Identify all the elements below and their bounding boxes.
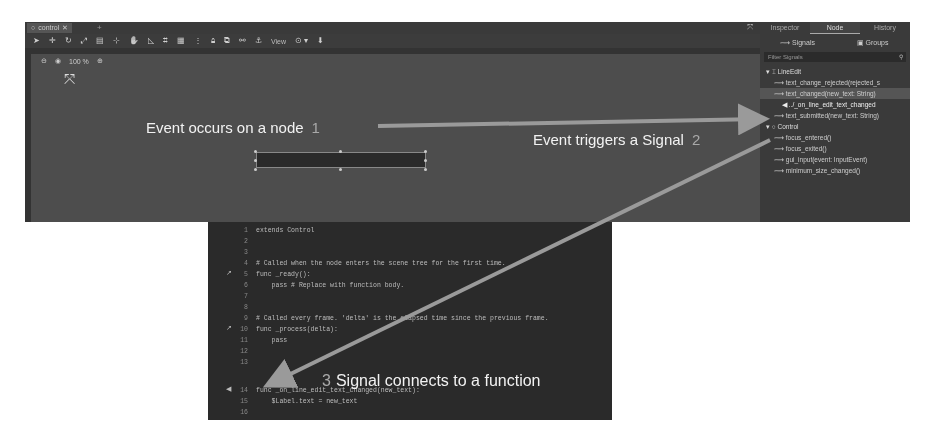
- zoom-reset-icon[interactable]: ◉: [55, 57, 61, 65]
- signal-icon: ⟿: [774, 156, 786, 163]
- zoom-out-icon[interactable]: ⊖: [41, 57, 47, 65]
- search-icon: ⚲: [899, 52, 903, 62]
- rotate-icon[interactable]: ↻: [65, 34, 72, 48]
- view-menu[interactable]: View: [271, 38, 286, 45]
- select-icon[interactable]: ➤: [33, 34, 40, 48]
- override-icon[interactable]: ↗: [226, 269, 232, 277]
- signal-connection[interactable]: ◀ ../_on_line_edit_text_changed: [760, 99, 910, 110]
- filter-signals-input[interactable]: Filter Signals ⚲: [764, 52, 906, 62]
- gizmo-icon[interactable]: ⊙ ▾: [295, 34, 308, 48]
- lock-icon[interactable]: 🔒︎: [211, 34, 215, 48]
- code-line: 15 $Label.text = new_text: [208, 396, 612, 407]
- code-line: 8: [208, 302, 612, 313]
- resize-handle[interactable]: [339, 150, 342, 153]
- code-line: 5func _ready():: [208, 269, 612, 280]
- line-edit-node[interactable]: [256, 152, 426, 168]
- distraction-free-icon[interactable]: ⤧: [747, 22, 753, 34]
- pivot-icon[interactable]: ⊹: [113, 34, 120, 48]
- node-dock: Inspector Node History ⟿ Signals ▣ Group…: [760, 22, 910, 222]
- bone-icon[interactable]: ⚯: [239, 34, 246, 48]
- scene-tab-bar: ○ control ✕ +: [25, 22, 760, 34]
- code-line: 3: [208, 247, 612, 258]
- zoom-controls: ⊖ ◉ 100 % ⊕: [41, 57, 103, 65]
- resize-handle[interactable]: [254, 150, 257, 153]
- override-icon[interactable]: ↗: [226, 324, 232, 332]
- resize-handle[interactable]: [339, 168, 342, 171]
- signals-subtab[interactable]: ⟿ Signals: [760, 39, 835, 47]
- code-line: 12: [208, 346, 612, 357]
- close-icon[interactable]: ✕: [62, 23, 68, 33]
- code-line: 9# Called every frame. 'delta' is the el…: [208, 313, 612, 324]
- group-icon[interactable]: ⧉: [224, 34, 230, 48]
- keyframe-icon[interactable]: ⬇: [317, 34, 324, 48]
- signal-tree: ▾ ⌶ LineEdit ⟿ text_change_rejected(reje…: [760, 66, 910, 176]
- code-line: 4# Called when the node enters the scene…: [208, 258, 612, 269]
- filter-placeholder: Filter Signals: [768, 54, 803, 60]
- resize-handle[interactable]: [424, 168, 427, 171]
- annotation-step-3: 3Signal connects to a function: [322, 372, 540, 390]
- signal-connection-icon[interactable]: ◀: [226, 385, 231, 393]
- groups-subtab[interactable]: ▣ Groups: [835, 39, 910, 47]
- resize-handle[interactable]: [254, 168, 257, 171]
- signal-item[interactable]: ⟿ focus_entered(): [760, 132, 910, 143]
- code-line: 7: [208, 291, 612, 302]
- signal-item[interactable]: ⟿ focus_exited(): [760, 143, 910, 154]
- signal-icon: ⟿: [774, 79, 786, 86]
- move-icon[interactable]: ✛: [49, 34, 56, 48]
- tab-node[interactable]: Node: [810, 22, 860, 34]
- annotation-step-2: Event triggers a Signal2: [533, 131, 700, 148]
- code-line: 2: [208, 236, 612, 247]
- tab-history[interactable]: History: [860, 22, 910, 34]
- scale-icon[interactable]: ⤢: [81, 34, 87, 48]
- tab-control[interactable]: ○ control ✕: [27, 23, 72, 33]
- signal-item[interactable]: ⟿ text_submitted(new_text: String): [760, 110, 910, 121]
- more-icon[interactable]: ⋮: [194, 34, 202, 48]
- signal-item[interactable]: ⟿ text_change_rejected(rejected_s: [760, 77, 910, 88]
- code-line: 10func _process(delta):: [208, 324, 612, 335]
- signal-icon: ⟿: [774, 134, 786, 141]
- anchor-icon[interactable]: ⚓︎: [255, 34, 262, 48]
- signal-item[interactable]: ⟿ gui_input(event: InputEvent): [760, 154, 910, 165]
- resize-handle[interactable]: [424, 159, 427, 162]
- circle-node-icon: ○: [31, 23, 35, 33]
- code-line: 1extends Control: [208, 225, 612, 236]
- script-editor[interactable]: 1extends Control 2 3 4# Called when the …: [208, 222, 612, 420]
- annotation-step-1: Event occurs on a node1: [146, 119, 320, 136]
- code-line: 11 pass: [208, 335, 612, 346]
- tab-inspector[interactable]: Inspector: [760, 22, 810, 34]
- signal-item-text-changed[interactable]: ⟿ text_changed(new_text: String): [760, 88, 910, 99]
- signal-item[interactable]: ⟿ minimum_size_changed(): [760, 165, 910, 176]
- signal-group-control[interactable]: ▾ ○ Control: [760, 121, 910, 132]
- signal-icon: ⟿: [774, 90, 786, 97]
- code-line: 6 pass # Replace with function body.: [208, 280, 612, 291]
- resize-handle[interactable]: [254, 159, 257, 162]
- zoom-in-icon[interactable]: ⊕: [97, 57, 103, 65]
- control-node-icon: ○: [772, 123, 776, 130]
- add-tab-button[interactable]: +: [97, 23, 102, 33]
- list-select-icon[interactable]: ▤: [96, 34, 104, 48]
- code-line: 13: [208, 357, 612, 368]
- node-subtabs: ⟿ Signals ▣ Groups: [760, 36, 910, 50]
- zoom-level[interactable]: 100 %: [69, 58, 89, 65]
- fullscreen-icon[interactable]: ⤧: [64, 71, 75, 88]
- ruler-icon[interactable]: ◺: [148, 34, 154, 48]
- signal-icon: ⟿: [780, 39, 792, 46]
- connection-icon: ◀: [782, 101, 789, 108]
- snap-icon[interactable]: ⌗: [163, 34, 168, 48]
- code-line: 16: [208, 407, 612, 418]
- resize-handle[interactable]: [424, 150, 427, 153]
- signal-icon: ⟿: [774, 167, 786, 174]
- dock-tab-bar: Inspector Node History: [760, 22, 910, 34]
- signal-icon: ⟿: [774, 145, 786, 152]
- tab-label: control: [38, 23, 59, 33]
- canvas-toolbar: ➤ ✛ ↻ ⤢ ▤ ⊹ ✋ ◺ ⌗ ▦ ⋮ 🔒︎ ⧉ ⚯ ⚓︎ View ⊙ ▾…: [25, 34, 760, 48]
- signal-icon: ⟿: [774, 112, 786, 119]
- pan-icon[interactable]: ✋: [129, 34, 139, 48]
- lineedit-icon: ⌶: [772, 68, 776, 75]
- grid-icon[interactable]: ▦: [177, 34, 185, 48]
- signal-group-lineedit[interactable]: ▾ ⌶ LineEdit: [760, 66, 910, 77]
